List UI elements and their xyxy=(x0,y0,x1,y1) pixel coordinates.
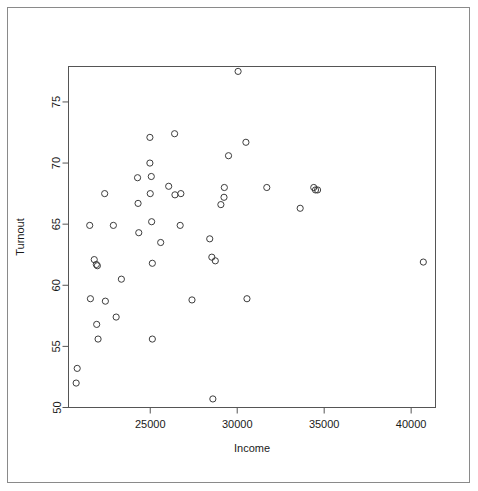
data-point xyxy=(297,205,303,211)
data-point xyxy=(74,365,80,371)
data-point xyxy=(110,222,116,228)
data-point xyxy=(73,380,79,386)
data-point xyxy=(221,194,227,200)
scatter-plot: 25000300003500040000 505560657075 Income… xyxy=(0,0,478,491)
data-point xyxy=(189,297,195,303)
data-point xyxy=(264,184,270,190)
data-point xyxy=(172,192,178,198)
data-point xyxy=(95,336,101,342)
plot-frame xyxy=(69,67,436,408)
data-point xyxy=(235,68,241,74)
data-point xyxy=(177,222,183,228)
data-point xyxy=(149,260,155,266)
data-point xyxy=(147,160,153,166)
y-axis-tick-labels: 505560657075 xyxy=(51,96,63,414)
data-point xyxy=(135,200,141,206)
y-tick-label: 70 xyxy=(51,157,63,169)
data-point xyxy=(136,230,142,236)
data-point xyxy=(218,202,224,208)
data-point xyxy=(420,259,426,265)
data-point xyxy=(102,191,108,197)
data-point xyxy=(147,134,153,140)
x-axis-tick-labels: 25000300003500040000 xyxy=(135,418,426,430)
data-point xyxy=(134,175,140,181)
data-point xyxy=(94,321,100,327)
x-tick-label: 25000 xyxy=(135,418,166,430)
x-tick-label: 30000 xyxy=(222,418,253,430)
y-tick-label: 65 xyxy=(51,218,63,230)
data-point xyxy=(225,153,231,159)
data-point xyxy=(113,314,119,320)
data-point xyxy=(87,296,93,302)
data-point xyxy=(166,183,172,189)
y-tick-label: 50 xyxy=(51,401,63,413)
x-tick-label: 40000 xyxy=(396,418,427,430)
x-axis-title: Income xyxy=(234,442,270,454)
x-axis-ticks xyxy=(150,408,411,414)
data-point xyxy=(172,131,178,137)
data-point xyxy=(209,254,215,260)
y-tick-label: 75 xyxy=(51,96,63,108)
data-point xyxy=(212,258,218,264)
data-point xyxy=(148,173,154,179)
data-point xyxy=(178,191,184,197)
data-point xyxy=(149,219,155,225)
data-point xyxy=(147,191,153,197)
data-point xyxy=(210,396,216,402)
data-point xyxy=(118,276,124,282)
data-point xyxy=(149,336,155,342)
y-tick-label: 60 xyxy=(51,279,63,291)
y-axis-ticks xyxy=(63,102,69,408)
y-axis-title: Turnout xyxy=(14,218,26,256)
data-point xyxy=(244,296,250,302)
chart-page: 25000300003500040000 505560657075 Income… xyxy=(0,0,478,491)
data-point xyxy=(87,222,93,228)
data-point xyxy=(221,184,227,190)
data-point xyxy=(158,239,164,245)
y-tick-label: 55 xyxy=(51,340,63,352)
data-points xyxy=(73,68,426,402)
data-point xyxy=(243,139,249,145)
data-point xyxy=(102,298,108,304)
x-tick-label: 35000 xyxy=(309,418,340,430)
data-point xyxy=(207,236,213,242)
